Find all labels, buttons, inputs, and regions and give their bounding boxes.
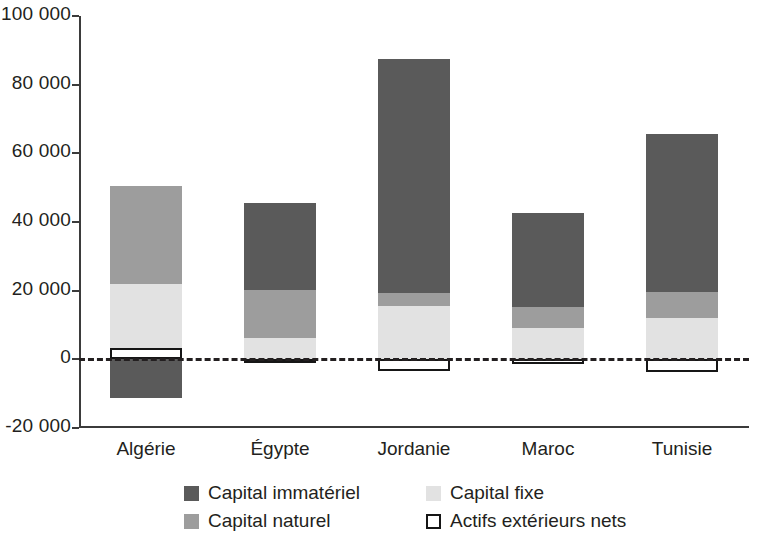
bar-segment-capital-naturel[interactable] — [244, 290, 316, 338]
legend-swatch-fixe-icon — [426, 486, 441, 501]
bar-group[interactable] — [378, 16, 450, 428]
bar-segment-capital-fixe[interactable] — [244, 338, 316, 359]
bar-group[interactable] — [244, 16, 316, 428]
x-axis-label-5: Tunisie — [652, 438, 713, 460]
bar-segment-capital-fixe[interactable] — [512, 328, 584, 359]
y-tick-mark — [72, 84, 79, 86]
y-axis-line — [79, 16, 81, 428]
x-axis-label-4: Maroc — [522, 438, 575, 460]
bar-segment-capital-immateriel[interactable] — [512, 213, 584, 307]
bar-segment-capital-naturel[interactable] — [110, 186, 182, 284]
bar-segment-capital-immateriel[interactable] — [646, 134, 718, 292]
legend-swatch-naturel-icon — [184, 514, 199, 529]
legend-item-naturel[interactable]: Capital naturel — [184, 507, 331, 535]
legend-label: Capital immatériel — [208, 482, 360, 504]
bar-segment-capital-immateriel[interactable] — [110, 359, 182, 398]
y-tick-mark — [72, 152, 79, 154]
y-tick-mark — [72, 358, 79, 360]
legend-label: Actifs extérieurs nets — [450, 510, 626, 532]
y-tick-mark — [72, 290, 79, 292]
y-tick-label: 20 000 — [12, 278, 71, 300]
bar-group[interactable] — [110, 16, 182, 428]
y-tick-label: 0 — [60, 346, 71, 368]
y-tick-mark — [72, 427, 79, 429]
y-tick-label: -20 000 — [5, 415, 71, 437]
y-tick-label: 60 000 — [12, 140, 71, 162]
legend-swatch-immateriel-icon — [184, 486, 199, 501]
legend-swatch-actifs-icon — [426, 514, 441, 529]
y-tick-mark — [72, 221, 79, 223]
bar-segment-capital-naturel[interactable] — [646, 292, 718, 318]
legend-item-actifs[interactable]: Actifs extérieurs nets — [426, 507, 626, 535]
stacked-bar-chart: 100 00080 00060 00040 00020 0000-20 000 … — [0, 0, 757, 535]
plot-area — [79, 16, 749, 428]
bar-segment-capital-naturel[interactable] — [512, 307, 584, 328]
bar-segment-capital-immateriel[interactable] — [244, 203, 316, 290]
x-axis-label-3: Jordanie — [378, 438, 451, 460]
legend-item-fixe[interactable]: Capital fixe — [426, 479, 544, 507]
x-axis-label-2: Égypte — [250, 438, 309, 460]
legend-label: Capital naturel — [208, 510, 331, 532]
legend-item-immateriel[interactable]: Capital immatériel — [184, 479, 360, 507]
chart-legend: Capital immatérielCapital fixeCapital na… — [184, 479, 704, 535]
bar-group[interactable] — [646, 16, 718, 428]
bar-segment-capital-fixe[interactable] — [646, 318, 718, 359]
y-tick-label: 40 000 — [12, 209, 71, 231]
x-axis-category-labels: AlgérieÉgypteJordanieMarocTunisie — [79, 438, 749, 468]
zero-reference-line — [79, 358, 749, 361]
bar-group[interactable] — [512, 16, 584, 428]
bar-segment-capital-fixe[interactable] — [378, 306, 450, 359]
y-tick-label: 80 000 — [12, 72, 71, 94]
y-axis-tick-labels: 100 00080 00060 00040 00020 0000-20 000 — [0, 16, 71, 428]
x-axis-label-1: Algérie — [116, 438, 175, 460]
y-tick-mark — [72, 15, 79, 17]
y-tick-label: 100 000 — [1, 3, 71, 25]
bar-segment-capital-naturel[interactable] — [378, 293, 450, 306]
bar-segment-capital-immateriel[interactable] — [378, 59, 450, 293]
legend-label: Capital fixe — [450, 482, 544, 504]
legend-row: Capital immatérielCapital fixe — [184, 479, 704, 507]
legend-row: Capital naturelActifs extérieurs nets — [184, 507, 704, 535]
